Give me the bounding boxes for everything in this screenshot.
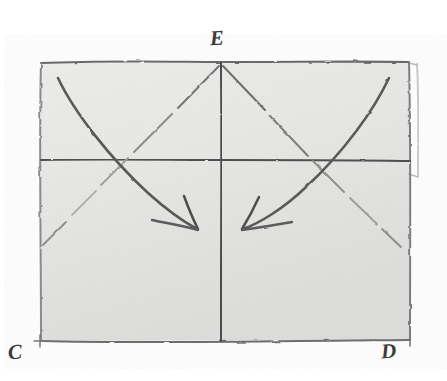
vertex-label-E: E	[209, 28, 225, 50]
figure-canvas: E C D	[0, 0, 447, 381]
vertex-label-C: C	[7, 341, 23, 363]
sketch-drawing	[0, 0, 447, 381]
vertex-label-D: D	[380, 340, 397, 362]
